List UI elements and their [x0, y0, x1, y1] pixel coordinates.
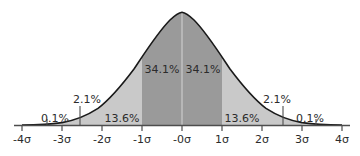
bell-curve-svg: 0.1% 2.1% 13.6% 34.1% 34.1% 13.6% 2.1% 0…: [0, 0, 360, 156]
label-0p1-left: 0.1%: [41, 112, 69, 125]
shaded-bands-group: [22, 0, 342, 125]
axis-label-neg1: -1σ: [133, 133, 151, 146]
axis-label-pos1: 1σ: [215, 133, 229, 146]
band-light-left: [62, 0, 142, 125]
band-tail-right: [302, 0, 342, 125]
axis-label-pos2: 2σ: [255, 133, 269, 146]
label-13p6-left: 13.6%: [105, 112, 140, 125]
label-34p1-right: 34.1%: [186, 63, 221, 76]
axis-label-neg2: -2σ: [93, 133, 111, 146]
mean-line: [181, 0, 182, 125]
axis-label-neg4: -4σ: [13, 133, 31, 146]
x-axis-ticks: [22, 126, 342, 132]
normal-distribution-chart: 0.1% 2.1% 13.6% 34.1% 34.1% 13.6% 2.1% 0…: [0, 0, 360, 156]
axis-label-neg3: -3σ: [53, 133, 71, 146]
label-13p6-right: 13.6%: [225, 112, 260, 125]
label-2p1-right: 2.1%: [263, 93, 291, 106]
axis-label-0: -0σ: [173, 133, 191, 146]
band-light-right: [222, 0, 302, 125]
label-2p1-left: 2.1%: [73, 93, 101, 106]
axis-label-pos4: 4σ: [335, 133, 349, 146]
band-tail-left: [22, 0, 62, 125]
axis-label-pos3: 3σ: [295, 133, 309, 146]
label-34p1-left: 34.1%: [145, 63, 180, 76]
label-0p1-right: 0.1%: [296, 112, 324, 125]
